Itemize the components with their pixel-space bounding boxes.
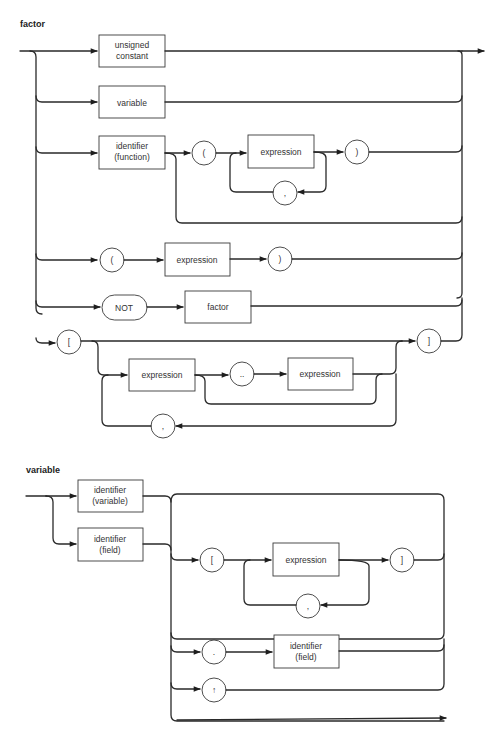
rbracket-label: ]	[428, 336, 430, 346]
rparen-label: )	[279, 254, 282, 264]
flow-line	[171, 683, 200, 689]
flow-line	[143, 544, 171, 550]
rbracket-label: ]	[401, 555, 403, 565]
flow-line	[92, 341, 127, 375]
diagram-title-factor: factor	[20, 19, 46, 29]
identifier-variable-label-1: identifier	[94, 485, 126, 495]
comma-label: ,	[307, 601, 309, 611]
unsigned-constant-label-2: constant	[116, 51, 149, 61]
variable-label: variable	[117, 98, 147, 108]
flow-line	[369, 146, 462, 152]
flow-line	[251, 300, 462, 306]
not-label: NOT	[115, 303, 133, 313]
flow-line	[46, 496, 76, 544]
identifier-field2-label-1: identifier	[290, 641, 322, 651]
comma-label: ,	[284, 188, 286, 198]
left-rail	[20, 51, 42, 314]
flow-line	[292, 253, 462, 259]
lparen-label: (	[111, 255, 114, 265]
unsigned-constant-label-1: unsigned	[115, 40, 150, 50]
expression-paren-label: expression	[176, 255, 217, 265]
flow-line	[353, 341, 402, 374]
flow-line	[165, 96, 462, 102]
exit-arrow	[177, 718, 446, 720]
dotdot-label: ..	[240, 369, 245, 379]
identifier-field-label-1: identifier	[94, 534, 126, 544]
flow-line	[171, 646, 200, 652]
loop-line	[176, 374, 396, 426]
identifier-field2-label-2: (field)	[295, 652, 316, 662]
flow-line	[441, 298, 462, 341]
identifier-field-label-2: (field)	[99, 545, 120, 555]
flow-line	[36, 147, 97, 153]
flow-line	[36, 96, 97, 102]
expression-label: expression	[285, 555, 326, 565]
flow-line	[36, 338, 55, 343]
identifier-function-label-1: identifier	[116, 141, 148, 151]
identifier-function-label-2: (function)	[114, 152, 150, 162]
flow-line	[171, 554, 198, 560]
flow-line	[143, 496, 171, 502]
expression-fn-label: expression	[260, 147, 301, 157]
pointer-label: ↑	[212, 685, 216, 695]
flow-line	[36, 254, 97, 260]
flow-line	[339, 645, 444, 651]
flow-line	[36, 301, 100, 307]
right-rail	[457, 51, 462, 298]
variable-diagram: variable identifier (variable) identifie…	[26, 465, 446, 721]
rparen-label: )	[356, 147, 359, 157]
identifier-variable-label-2: (variable)	[92, 496, 128, 506]
flow-line	[414, 554, 444, 560]
lparen-label: (	[203, 148, 206, 158]
diagram-title-variable: variable	[26, 465, 60, 475]
syntax-diagrams: factor unsigned constant variable identi…	[0, 0, 503, 735]
factor-diagram: factor unsigned constant variable identi…	[20, 19, 484, 438]
factor-label: factor	[207, 302, 228, 312]
expression-set1-label: expression	[141, 370, 182, 380]
dot-label: .	[213, 647, 215, 657]
comma-label: ,	[162, 421, 164, 431]
expression-set2-label: expression	[299, 369, 340, 379]
